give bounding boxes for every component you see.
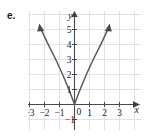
parabola-graph-svg: y x 0 −3 −2 −1 1 2 3 −1 1 2 3 4 5 — [28, 11, 141, 130]
x-tick-label-2: 2 — [102, 108, 107, 118]
origin-tick-label: 0 — [77, 107, 82, 117]
x-tick-label-neg3: −3 — [28, 108, 35, 118]
x-axis-label: x — [134, 104, 140, 115]
y-tick-label-neg1: −1 — [65, 115, 75, 125]
figure-container: e. — [0, 0, 146, 137]
plot-area: y x 0 −3 −2 −1 1 2 3 −1 1 2 3 4 5 — [28, 11, 141, 130]
x-tick-label-3: 3 — [117, 108, 122, 118]
y-axis-label: y — [67, 11, 73, 21]
x-tick-label-neg2: −2 — [39, 108, 49, 118]
y-tick-label-5: 5 — [67, 25, 72, 35]
x-tick-label-1: 1 — [87, 108, 92, 118]
y-tick-label-4: 4 — [67, 40, 72, 50]
y-tick-label-2: 2 — [67, 70, 72, 80]
y-tick-label-1: 1 — [67, 85, 72, 95]
x-tick-label-neg1: −1 — [54, 108, 64, 118]
y-tick-label-3: 3 — [67, 55, 72, 65]
figure-item-label: e. — [7, 11, 15, 21]
